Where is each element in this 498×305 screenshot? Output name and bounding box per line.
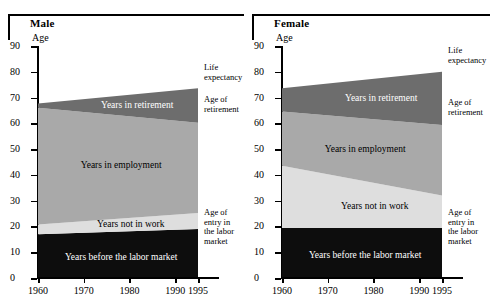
annotation-age-of-entry-female: Age of entry in the labor market	[448, 208, 496, 246]
x-tick	[282, 278, 284, 283]
y-tick	[31, 252, 37, 254]
band-label-retirement: Years in retirement	[101, 100, 173, 110]
y-tick	[31, 46, 37, 48]
y-tick-label: 0	[254, 273, 259, 283]
y-tick	[31, 201, 37, 203]
y-tick	[275, 252, 281, 254]
y-axis-title-male: Age	[32, 32, 49, 43]
x-axis-line-male	[37, 277, 219, 279]
y-tick-label: 30	[254, 196, 264, 206]
x-tick	[38, 278, 40, 283]
panel-title-female: Female	[274, 17, 309, 29]
x-tick	[129, 278, 131, 283]
x-tick-label: 1960	[272, 285, 292, 296]
x-tick	[373, 278, 375, 283]
panel-top-rule	[8, 14, 244, 16]
panel-top-rule	[252, 14, 490, 16]
y-tick	[31, 175, 37, 177]
y-tick	[31, 149, 37, 151]
y-tick-label: 50	[10, 144, 20, 154]
figure-canvas: Male Age 0102030405060708090 19601970198…	[0, 0, 498, 305]
x-tick-label: 1995	[188, 285, 208, 296]
x-tick-label: 1970	[318, 285, 338, 296]
x-axis-line-female	[281, 277, 463, 279]
y-tick	[275, 46, 281, 48]
x-tick-label: 1960	[28, 285, 48, 296]
panel-female: Female Age 0102030405060708090 196019701…	[252, 14, 490, 293]
y-tick	[31, 72, 37, 74]
y-tick	[31, 98, 37, 100]
y-tick	[31, 123, 37, 125]
y-tick-label: 40	[254, 170, 264, 180]
plot-area-female	[282, 46, 442, 278]
x-tick	[175, 278, 177, 283]
y-tick-label: 90	[254, 41, 264, 51]
y-tick	[275, 123, 281, 125]
annotation-age-of-retirement-male: Age of retirement	[204, 95, 252, 114]
annotation-age-of-retirement-female: Age of retirement	[448, 98, 496, 117]
band-label-employment: Years in employment	[325, 144, 406, 154]
x-tick-label: 1990	[409, 285, 429, 296]
band-label-before-market: Years before the labor market	[65, 252, 177, 262]
y-tick	[275, 149, 281, 151]
x-tick	[419, 278, 421, 283]
x-tick	[442, 278, 444, 283]
x-tick	[84, 278, 86, 283]
x-tick-label: 1970	[74, 285, 94, 296]
y-tick	[275, 98, 281, 100]
y-tick	[275, 201, 281, 203]
band-label-retirement: Years in retirement	[345, 93, 417, 103]
y-tick	[275, 226, 281, 228]
stacked-area-female	[282, 46, 442, 278]
x-tick-label: 1980	[119, 285, 139, 296]
y-tick-label: 90	[10, 41, 20, 51]
panel-left-rule	[252, 14, 254, 40]
y-tick-label: 80	[254, 67, 264, 77]
y-tick	[275, 72, 281, 74]
x-tick-label: 1980	[363, 285, 383, 296]
annotation-life-expectancy-female: Life expectancy	[448, 46, 496, 65]
y-tick-label: 50	[254, 144, 264, 154]
y-axis-title-female: Age	[276, 32, 293, 43]
y-tick-label: 20	[10, 221, 20, 231]
y-tick-label: 20	[254, 221, 264, 231]
y-tick	[275, 175, 281, 177]
y-tick-label: 40	[10, 170, 20, 180]
panel-left-rule	[8, 14, 10, 40]
x-tick	[328, 278, 330, 283]
y-tick-label: 60	[10, 118, 20, 128]
y-tick-label: 60	[254, 118, 264, 128]
band-label-not-in-work: Years not in work	[341, 201, 408, 211]
annotation-life-expectancy-male: Life expectancy	[204, 63, 252, 82]
y-tick-label: 0	[10, 273, 15, 283]
panel-male: Male Age 0102030405060708090 19601970198…	[8, 14, 244, 293]
panel-title-male: Male	[30, 17, 55, 29]
y-tick-label: 80	[10, 67, 20, 77]
x-tick	[198, 278, 200, 283]
y-tick-label: 70	[254, 93, 264, 103]
x-tick-label: 1995	[432, 285, 452, 296]
band-label-before-market: Years before the labor market	[309, 250, 421, 260]
y-tick-label: 70	[10, 93, 20, 103]
x-tick-label: 1990	[165, 285, 185, 296]
y-tick-label: 10	[10, 247, 20, 257]
annotation-age-of-entry-male: Age of entry in the labor market	[204, 208, 252, 246]
y-tick-label: 30	[10, 196, 20, 206]
y-tick-label: 10	[254, 247, 264, 257]
band-label-not-in-work: Years not in work	[97, 219, 164, 229]
y-tick	[31, 226, 37, 228]
band-label-employment: Years in employment	[81, 160, 162, 170]
